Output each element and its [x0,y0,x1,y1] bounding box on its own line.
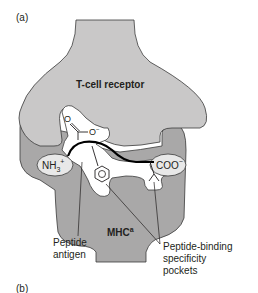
carboxylate-oxygen: O [89,127,96,137]
mhc-label: MHC [107,227,130,238]
tcr-label: T-cell receptor [76,79,144,90]
n-terminus-subscript: 3 [56,166,60,173]
carbonyl-oxygen: O [64,114,71,124]
c-terminus-charge: − [179,158,183,165]
panel-label-a: (a) [16,12,28,23]
n-terminus-charge: + [60,158,64,165]
carboxylate-charge: − [96,126,100,132]
n-terminus-label: NH [42,160,56,171]
peptide-callout-line1: Peptide [53,237,87,248]
pockets-callout-line1: Peptide-binding [163,241,233,252]
c-terminus-label: COO [156,160,179,171]
tcr-mhc-diagram: (a) NH3+ COO− O O− T-cell receptor MHCa … [0,0,258,293]
pockets-callout-line2: specificity [163,253,206,264]
panel-label-b: (b) [16,283,28,293]
mhc-superscript: a [130,226,134,233]
svg-text:MHCa: MHCa [107,226,134,238]
pockets-callout-line3: pockets [163,265,197,276]
peptide-callout-line2: antigen [53,249,86,260]
